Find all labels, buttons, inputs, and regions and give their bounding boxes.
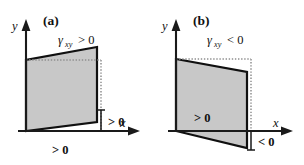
deformed-element-shape-b <box>176 59 247 148</box>
shear-strain-subscript-a: xy <box>64 40 73 49</box>
shear-strain-symbol-b: γ <box>207 33 213 47</box>
y-axis-label-a: y <box>10 19 18 33</box>
shear-strain-label-b: γ xy < 0 <box>207 33 243 49</box>
x-axis-arrowhead-a <box>128 127 140 136</box>
y-axis-arrowhead-b <box>172 19 181 31</box>
y-axis-label-b: y <box>160 19 168 33</box>
shear-strain-relation-a: > 0 <box>78 33 94 47</box>
shear-strain-symbol-a: γ <box>58 33 64 47</box>
panel-tag-a: (a) <box>43 13 59 28</box>
horizontal-annotation-a: > 0 <box>52 143 69 157</box>
vertical-measure-bar-a <box>97 110 105 131</box>
horizontal-annotation-b: > 0 <box>194 111 211 125</box>
panel-a: (a) y x γ xy > 0 > 0 > 0 <box>0 0 152 165</box>
shear-strain-relation-b: < 0 <box>227 33 243 47</box>
vertical-annotation-b: < 0 <box>258 135 275 149</box>
y-axis-arrowhead-a <box>22 19 31 31</box>
vertical-annotation-a: > 0 <box>108 115 125 129</box>
shear-strain-subscript-b: xy <box>213 40 222 49</box>
x-axis-label-b: x <box>272 116 279 130</box>
panel-b: (b) y x γ xy < 0 > 0 < 0 <box>152 0 304 165</box>
shear-strain-label-a: γ xy > 0 <box>58 33 94 49</box>
figure-root: (a) y x γ xy > 0 > 0 > 0 (b) y <box>0 0 304 165</box>
panel-tag-b: (b) <box>193 13 210 28</box>
vertical-measure-bar-b <box>247 131 255 150</box>
x-axis-arrowhead-b <box>281 127 293 136</box>
